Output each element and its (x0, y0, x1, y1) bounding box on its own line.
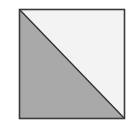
square-diagram (0, 0, 127, 129)
